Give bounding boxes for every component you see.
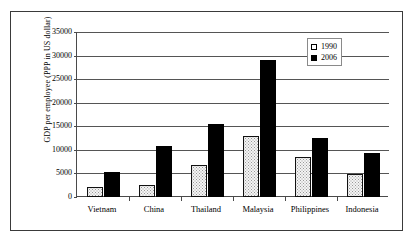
bar-vietnam-1990 bbox=[87, 187, 103, 197]
category-label-china: China bbox=[128, 204, 180, 214]
category-label-vietnam: Vietnam bbox=[76, 204, 128, 214]
x-axis-category-labels: VietnamChinaThailandMalaysiaPhilippinesI… bbox=[76, 204, 388, 218]
y-tick-label: 0 bbox=[28, 193, 72, 201]
bar-malaysia-2006 bbox=[260, 60, 276, 197]
category-label-malaysia: Malaysia bbox=[232, 204, 284, 214]
bar-thailand-1990 bbox=[191, 165, 207, 197]
bar-group bbox=[77, 32, 129, 197]
y-tick-label: 35000 bbox=[28, 28, 72, 36]
y-tick-mark bbox=[74, 197, 77, 198]
bar-china-2006 bbox=[156, 146, 172, 197]
bar-philippines-1990 bbox=[295, 157, 311, 197]
y-tick-label: 5000 bbox=[28, 169, 72, 177]
x-axis-separator bbox=[233, 197, 234, 201]
y-tick-label: 20000 bbox=[28, 99, 72, 107]
y-tick-label: 25000 bbox=[28, 75, 72, 83]
bars-layer bbox=[77, 32, 389, 197]
chart-legend: 1990 2006 bbox=[307, 38, 342, 66]
category-label-thailand: Thailand bbox=[180, 204, 232, 214]
legend-item-1990: 1990 bbox=[311, 41, 337, 52]
bar-indonesia-1990 bbox=[347, 174, 363, 197]
y-tick-label: 10000 bbox=[28, 146, 72, 154]
bar-vietnam-2006 bbox=[104, 172, 120, 197]
bar-malaysia-1990 bbox=[243, 136, 259, 197]
bar-thailand-2006 bbox=[208, 124, 224, 197]
bar-china-1990 bbox=[139, 185, 155, 197]
bar-group bbox=[181, 32, 233, 197]
bar-group bbox=[129, 32, 181, 197]
x-axis-separator bbox=[129, 197, 130, 201]
legend-swatch-hollow-square-icon bbox=[311, 44, 317, 50]
x-axis-separator bbox=[181, 197, 182, 201]
y-tick-label: 30000 bbox=[28, 52, 72, 60]
bar-group bbox=[337, 32, 389, 197]
legend-label-2006: 2006 bbox=[321, 54, 337, 62]
x-axis-separator bbox=[337, 197, 338, 201]
legend-label-1990: 1990 bbox=[321, 43, 337, 51]
y-tick-label: 15000 bbox=[28, 122, 72, 130]
category-label-indonesia: Indonesia bbox=[336, 204, 388, 214]
legend-swatch-filled-square-icon bbox=[311, 55, 317, 61]
x-axis-separator bbox=[285, 197, 286, 201]
bar-group bbox=[233, 32, 285, 197]
bar-indonesia-2006 bbox=[364, 153, 380, 197]
legend-item-2006: 2006 bbox=[311, 52, 337, 63]
category-label-philippines: Philippines bbox=[284, 204, 336, 214]
bar-philippines-2006 bbox=[312, 138, 328, 197]
chart-figure-frame: GDP per employee (PPP in US dollar) 3500… bbox=[10, 11, 403, 231]
